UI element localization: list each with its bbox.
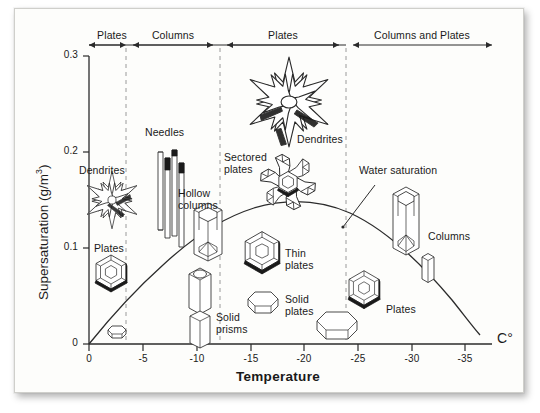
crystal-dendrite-left xyxy=(80,171,143,229)
y-axis-title-suffix: ) xyxy=(36,165,51,170)
x-tick-0: 0 xyxy=(75,353,103,365)
label-needles: Needles xyxy=(145,127,184,139)
x-tick--30: -30 xyxy=(398,353,426,365)
y-tick-0.1: 0.1 xyxy=(52,241,78,253)
nakaya-diagram-canvas xyxy=(0,0,540,413)
x-tick--10: -10 xyxy=(183,353,211,365)
crystal-open-column xyxy=(189,268,211,314)
y-tick-0.3: 0.3 xyxy=(52,49,78,61)
crystal-hollow-column xyxy=(194,203,222,261)
water-saturation-curve xyxy=(89,202,480,344)
y-tick-0: 0 xyxy=(52,337,78,349)
y-tick-0.2: 0.2 xyxy=(52,145,78,157)
crystal-thin-plate xyxy=(244,232,280,274)
label-dendrites-center: Dendrites xyxy=(297,134,343,146)
crystal-thin-disc xyxy=(108,326,126,338)
y-axis-title-exponent: 3 xyxy=(34,169,44,174)
label-solid-prisms: Solid prisms xyxy=(216,312,248,335)
band-label-plates-1: Plates xyxy=(94,30,130,42)
band-label-columns-and-plates: Columns and Plates xyxy=(360,30,484,42)
x-tick--25: -25 xyxy=(344,353,372,365)
x-tick--35: -35 xyxy=(451,353,479,365)
crystal-plate-left xyxy=(95,255,127,292)
label-plates-left: Plates xyxy=(94,243,124,255)
band-label-columns: Columns xyxy=(137,30,209,42)
x-tick--5: -5 xyxy=(129,353,157,365)
label-columns-right: Columns xyxy=(428,231,470,243)
label-hollow-columns: Hollow columns xyxy=(178,188,218,211)
crystal-solid-prism xyxy=(190,311,210,348)
label-dendrites-left: Dendrites xyxy=(79,165,125,177)
label-sectored-plates: Sectored plates xyxy=(224,152,267,175)
figure-page: Plates Columns Plates Columns and Plates… xyxy=(0,0,540,413)
label-plates-right: Plates xyxy=(386,304,416,316)
label-solid-plates: Solid plates xyxy=(285,294,314,317)
crystal-plate-right xyxy=(348,271,380,309)
crystal-small-column xyxy=(422,254,434,283)
label-thin-plates: Thin plates xyxy=(285,248,314,271)
x-tick--20: -20 xyxy=(290,353,318,365)
label-water-saturation: Water saturation xyxy=(359,165,437,177)
water-saturation-pointer xyxy=(343,185,375,227)
y-axis-title: Supersaturation (g/m3) xyxy=(34,165,51,300)
y-axis-title-prefix: Supersaturation (g/m xyxy=(36,174,51,300)
x-axis-title: Temperature xyxy=(198,371,358,383)
crystal-solid-plate-center xyxy=(248,292,278,313)
band-label-plates-2: Plates xyxy=(249,30,317,42)
x-tick--15: -15 xyxy=(237,353,265,365)
x-unit-label: C° xyxy=(497,333,513,345)
crystal-thick-plate-right xyxy=(317,312,357,339)
crystal-column-right xyxy=(393,187,419,255)
